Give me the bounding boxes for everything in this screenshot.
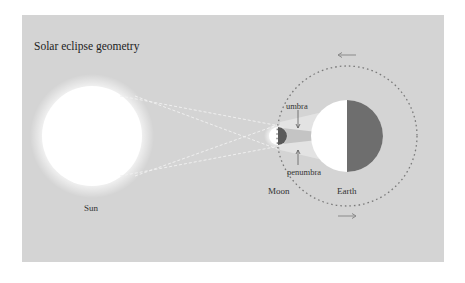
diagram-title: Solar eclipse geometry (34, 40, 139, 52)
earth-label: Earth (337, 186, 357, 196)
sun-disk (42, 86, 142, 186)
orbit-arrow-bottom (338, 214, 356, 219)
penumbra-pointer-arrow (296, 150, 300, 165)
umbra-label: umbra (286, 101, 308, 111)
sun-label: Sun (84, 203, 98, 213)
moon-label: Moon (268, 186, 290, 196)
earth-night-side (347, 100, 383, 172)
penumbra-label: penumbra (287, 167, 321, 177)
orbit-arrow-top (338, 53, 356, 58)
